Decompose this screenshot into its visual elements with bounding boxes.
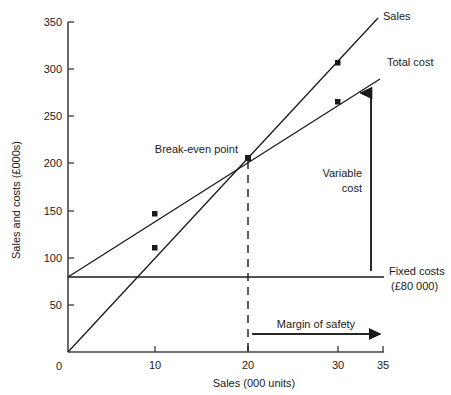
y-axis-title: Sales and costs (£000s) bbox=[10, 141, 22, 259]
x-tick-label-10: 10 bbox=[149, 359, 161, 371]
variable-cost-label-line1: Variable bbox=[322, 167, 362, 179]
x-axis-title: Sales (000 units) bbox=[213, 377, 296, 389]
x-tick-label-20: 20 bbox=[242, 359, 254, 371]
axes bbox=[68, 22, 384, 352]
y-tick-label-300: 300 bbox=[44, 63, 62, 75]
fixed-costs-label-line2: (£80 000) bbox=[391, 280, 438, 292]
y-tick-label-100: 100 bbox=[44, 252, 62, 264]
variable-cost-annotation: Variable cost bbox=[322, 93, 371, 271]
y-tick-label-250: 250 bbox=[44, 110, 62, 122]
x-tick-label-30: 30 bbox=[332, 359, 344, 371]
marker-sales-10 bbox=[152, 211, 158, 217]
total-cost-line-label: Total cost bbox=[387, 56, 433, 68]
series-lines bbox=[68, 18, 384, 352]
marker-total-cost-10 bbox=[152, 245, 158, 251]
y-axis-tick-labels: 350 300 250 200 150 100 50 0 bbox=[44, 16, 62, 372]
break-even-label: Break-even point bbox=[155, 143, 238, 155]
y-tick-label-200: 200 bbox=[44, 157, 62, 169]
break-even-annotation: Break-even point bbox=[155, 143, 251, 352]
fixed-costs-annotation: Fixed costs (£80 000) bbox=[389, 265, 445, 292]
y-axis-ticks bbox=[68, 22, 74, 305]
sales-line bbox=[68, 18, 378, 352]
margin-of-safety-label: Margin of safety bbox=[277, 318, 356, 330]
y-tick-label-350: 350 bbox=[44, 16, 62, 28]
y-tick-label-0: 0 bbox=[56, 360, 62, 372]
sales-line-label: Sales bbox=[383, 10, 411, 22]
x-axis-ticks bbox=[155, 346, 383, 352]
margin-of-safety-annotation: Margin of safety bbox=[252, 318, 380, 334]
break-even-chart: 350 300 250 200 150 100 50 0 10 20 30 35… bbox=[0, 0, 451, 395]
fixed-costs-label-line1: Fixed costs bbox=[389, 265, 445, 277]
x-axis-tick-labels: 10 20 30 35 bbox=[149, 359, 389, 371]
marker-sales-30 bbox=[335, 60, 341, 66]
x-tick-label-35: 35 bbox=[377, 359, 389, 371]
variable-cost-label-line2: cost bbox=[342, 182, 362, 194]
y-tick-label-50: 50 bbox=[50, 299, 62, 311]
y-tick-label-150: 150 bbox=[44, 205, 62, 217]
chart-svg: 350 300 250 200 150 100 50 0 10 20 30 35… bbox=[0, 0, 451, 395]
marker-total-cost-30 bbox=[335, 99, 341, 105]
break-even-marker bbox=[245, 155, 251, 161]
